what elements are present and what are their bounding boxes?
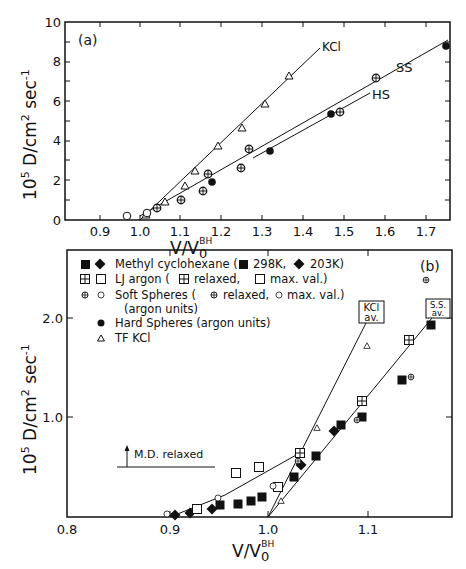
panel-a-y-tick-labels: 0 2 4 6 8 10 bbox=[44, 15, 61, 228]
panel-b-fit-lines bbox=[170, 318, 432, 517]
svg-text:TF KCl: TF KCl bbox=[114, 331, 150, 345]
kcl-line bbox=[140, 48, 320, 220]
svg-text:2.0: 2.0 bbox=[42, 311, 63, 326]
svg-text:10: 10 bbox=[44, 15, 61, 30]
kcl-av-box: KCl av. bbox=[359, 301, 384, 323]
svg-text:1.0: 1.0 bbox=[258, 522, 279, 537]
panel-b-y-tick-labels: 1.0 2.0 bbox=[42, 311, 63, 425]
panel-a-label: (a) bbox=[78, 32, 98, 48]
panel-a: (a) 0 2 4 6 8 10 bbox=[19, 15, 450, 261]
panel-a-frame bbox=[65, 22, 450, 220]
svg-text:relaxed,: relaxed, bbox=[194, 272, 240, 286]
svg-text:105 D/cm2 sec-1: 105 D/cm2 sec-1 bbox=[19, 69, 40, 200]
svg-text:1.6: 1.6 bbox=[375, 224, 396, 239]
svg-text:4: 4 bbox=[53, 133, 61, 148]
svg-text:0.9: 0.9 bbox=[90, 224, 111, 239]
svg-text:1.1: 1.1 bbox=[358, 522, 379, 537]
svg-text:V/V0BH: V/V0BH bbox=[232, 539, 274, 564]
panel-b-x-tick-labels: 0.8 0.9 1.0 1.1 bbox=[57, 522, 379, 537]
svg-text:105 D/cm2 sec-1: 105 D/cm2 sec-1 bbox=[19, 344, 40, 475]
svg-text:(argon units): (argon units) bbox=[124, 302, 198, 316]
panel-b-methylcyclohexane-298k bbox=[216, 321, 436, 510]
panel-b-legend: Methyl cyclohexane ( 298K, 203K) LJ argo… bbox=[81, 257, 345, 345]
svg-text:0: 0 bbox=[53, 213, 61, 228]
panel-a-x-ticks bbox=[100, 22, 426, 220]
ss-av-line bbox=[268, 318, 432, 517]
svg-text:298K,: 298K, bbox=[253, 257, 286, 271]
svg-text:Soft Spheres (: Soft Spheres ( bbox=[115, 288, 196, 302]
panel-b: (b) 1.0 2.0 0.8 0.9 1.0 1.1 V/V0BH 105 D… bbox=[19, 250, 452, 564]
svg-text:LJ argon (: LJ argon ( bbox=[115, 272, 170, 286]
panel-a-x-tick-labels: 0.9 1.0 1.1 1.2 1.3 1.4 1.5 1.6 1.7 bbox=[90, 224, 437, 239]
svg-text:203K): 203K) bbox=[310, 257, 344, 271]
svg-text:1.3: 1.3 bbox=[252, 224, 273, 239]
svg-text:Hard Spheres (argon units): Hard Spheres (argon units) bbox=[115, 316, 270, 330]
ss-line-label: SS bbox=[396, 60, 413, 75]
panel-b-label: (b) bbox=[420, 258, 440, 274]
svg-text:1.0: 1.0 bbox=[42, 410, 63, 425]
svg-text:1.0: 1.0 bbox=[130, 224, 151, 239]
svg-text:1.2: 1.2 bbox=[211, 224, 232, 239]
panel-b-lj-relaxed bbox=[296, 336, 414, 458]
svg-text:relaxed,: relaxed, bbox=[223, 288, 269, 302]
svg-text:max. val.): max. val.) bbox=[287, 288, 345, 302]
panel-a-y-ticks bbox=[65, 42, 450, 200]
figure: (a) 0 2 4 6 8 10 bbox=[0, 0, 466, 569]
md-relaxed-annotation: M.D. relaxed bbox=[117, 445, 215, 467]
svg-text:av.: av. bbox=[364, 312, 378, 323]
panel-a-y-label: 105 D/cm2 sec-1 bbox=[19, 69, 40, 200]
svg-text:max. val.): max. val.) bbox=[270, 272, 328, 286]
svg-text:6: 6 bbox=[53, 94, 61, 109]
svg-text:1.1: 1.1 bbox=[170, 224, 191, 239]
panel-a-hardsphere-points bbox=[208, 42, 450, 186]
kcl-line-label: KCl bbox=[322, 40, 341, 54]
panel-a-softsphere-points bbox=[153, 74, 380, 212]
svg-text:av.: av. bbox=[432, 308, 444, 318]
panel-b-x-label: V/V0BH bbox=[232, 539, 274, 564]
ss-av-box: S.S. av. bbox=[426, 299, 450, 318]
svg-text:8: 8 bbox=[53, 54, 61, 69]
svg-text:0.9: 0.9 bbox=[160, 522, 181, 537]
svg-text:Methyl cyclohexane (: Methyl cyclohexane ( bbox=[115, 257, 238, 271]
svg-text:M.D. relaxed: M.D. relaxed bbox=[134, 448, 203, 461]
svg-text:1.7: 1.7 bbox=[416, 224, 437, 239]
svg-text:0.8: 0.8 bbox=[57, 522, 78, 537]
svg-text:2: 2 bbox=[53, 173, 61, 188]
svg-text:1.4: 1.4 bbox=[293, 224, 314, 239]
svg-text:1.5: 1.5 bbox=[334, 224, 355, 239]
hs-line-label: HS bbox=[372, 87, 390, 102]
panel-b-y-label: 105 D/cm2 sec-1 bbox=[19, 344, 40, 475]
